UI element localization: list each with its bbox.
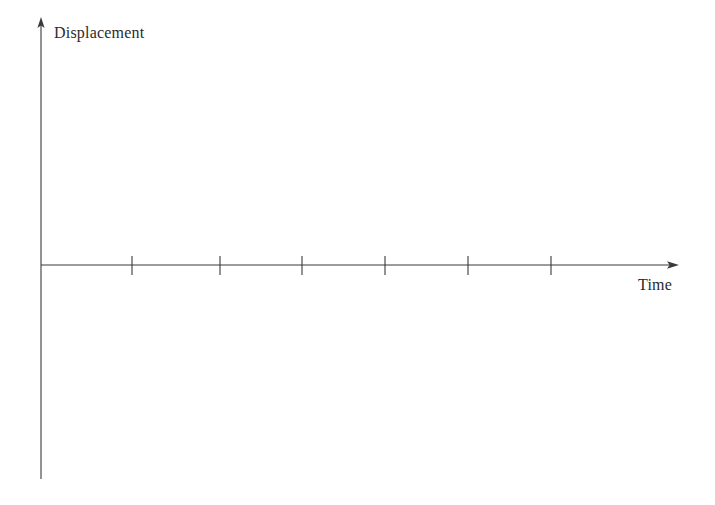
axes-diagram xyxy=(0,0,715,505)
figure-canvas: Displacement Time xyxy=(0,0,715,505)
x-axis-label: Time xyxy=(638,276,672,294)
y-axis-label: Displacement xyxy=(54,24,144,42)
